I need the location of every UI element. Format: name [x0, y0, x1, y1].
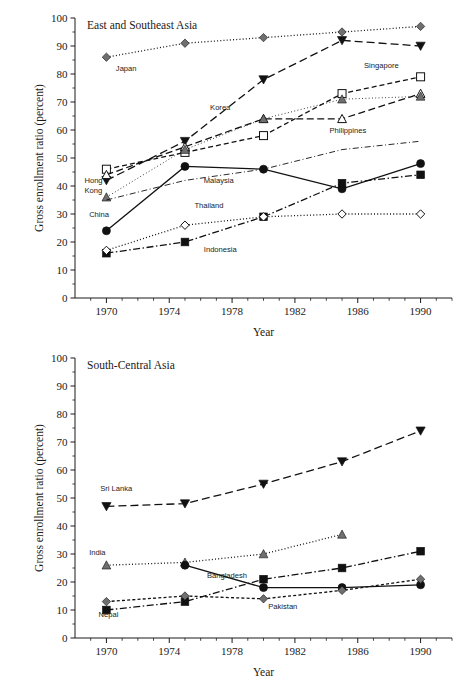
x-tick-label: 1978 [221, 645, 244, 657]
y-tick-label: 20 [57, 576, 69, 588]
series-label: India [89, 548, 106, 557]
x-tick-label: 1970 [95, 645, 118, 657]
y-tick-label: 90 [57, 40, 69, 52]
y-tick-label: 30 [57, 208, 69, 220]
series-label: Korea [210, 103, 231, 112]
marker-diamond-gray [102, 597, 110, 605]
marker-diamond-open [181, 221, 189, 229]
y-tick-label: 100 [51, 352, 68, 364]
series-hong-kong [102, 92, 425, 201]
marker-circle-filled [260, 165, 268, 173]
series-line [106, 431, 420, 507]
series-label: Philippines [329, 126, 366, 135]
marker-diamond-gray [338, 28, 346, 36]
series-label: Bangladesh [207, 571, 247, 580]
series-label: Japan [116, 64, 137, 73]
y-tick-label: 40 [57, 180, 69, 192]
series-thailand [102, 210, 425, 255]
panel-title: East and Southeast Asia [87, 19, 197, 31]
marker-circle-filled [181, 561, 189, 569]
series-label: China [89, 210, 110, 219]
x-axis-title: Year [253, 326, 274, 338]
marker-triangle-down-filled [416, 427, 425, 435]
series-label: Hong [84, 176, 102, 185]
marker-diamond-open [338, 210, 346, 218]
plot-area-bottom: 0102030405060708090100197019741978198219… [0, 350, 467, 688]
marker-square-open [417, 73, 425, 81]
y-axis-title: Gross enrollment ratio (percent) [33, 84, 46, 232]
marker-circle-filled [102, 227, 110, 235]
marker-square-filled [417, 547, 425, 555]
x-tick-label: 1982 [284, 305, 306, 317]
x-tick-label: 1990 [410, 305, 433, 317]
x-tick-label: 1978 [221, 305, 244, 317]
y-tick-label: 70 [57, 96, 69, 108]
y-tick-label: 100 [51, 12, 68, 24]
x-axis-title: Year [253, 666, 274, 678]
y-tick-label: 80 [57, 68, 69, 80]
series-india [102, 530, 346, 569]
y-tick-label: 90 [57, 380, 69, 392]
marker-square-filled [338, 179, 346, 187]
series-label: Kong [84, 186, 102, 195]
series-label: Nepal [99, 610, 119, 619]
y-tick-label: 20 [57, 236, 69, 248]
marker-diamond-gray [259, 33, 267, 41]
y-tick-label: 50 [57, 492, 69, 504]
y-tick-label: 40 [57, 520, 69, 532]
marker-diamond-gray [102, 53, 110, 61]
chart-svg-top: 0102030405060708090100197019741978198219… [0, 0, 467, 350]
y-tick-label: 0 [62, 632, 68, 644]
marker-circle-filled [417, 160, 425, 168]
x-tick-label: 1986 [347, 645, 370, 657]
x-tick-label: 1982 [284, 645, 306, 657]
marker-diamond-gray [259, 595, 267, 603]
series-korea [102, 37, 425, 185]
marker-triangle-up-gray [102, 561, 111, 569]
marker-diamond-gray [416, 22, 424, 30]
y-tick-label: 70 [57, 436, 69, 448]
y-tick-label: 80 [57, 408, 69, 420]
chart-east-southeast-asia: 0102030405060708090100197019741978198219… [0, 0, 467, 350]
series-label: Sri Lanka [100, 484, 133, 493]
marker-diamond-gray [181, 39, 189, 47]
y-tick-label: 50 [57, 152, 69, 164]
series-china [102, 160, 424, 235]
y-tick-label: 10 [57, 604, 69, 616]
marker-square-filled [181, 238, 189, 246]
marker-circle-filled [260, 584, 268, 592]
chart-svg-bottom: 0102030405060708090100197019741978198219… [0, 350, 467, 688]
y-tick-label: 10 [57, 264, 69, 276]
series-sri-lanka [102, 427, 425, 511]
x-tick-label: 1990 [410, 645, 433, 657]
x-tick-label: 1974 [158, 645, 181, 657]
series-label: Indonesia [204, 245, 238, 254]
marker-circle-filled [181, 162, 189, 170]
marker-square-filled [260, 575, 268, 583]
y-tick-label: 30 [57, 548, 69, 560]
marker-square-filled [338, 564, 346, 572]
marker-triangle-down-filled [337, 458, 346, 466]
marker-square-open [260, 132, 268, 140]
series-line [106, 534, 342, 565]
x-tick-label: 1974 [158, 305, 181, 317]
plot-area-top: 0102030405060708090100197019741978198219… [0, 0, 467, 350]
series-label: Malaysia [204, 176, 235, 185]
series-label: Pakistan [268, 602, 297, 611]
y-tick-label: 0 [62, 292, 68, 304]
y-tick-label: 60 [57, 464, 69, 476]
marker-triangle-up-gray [338, 530, 347, 538]
y-axis-title: Gross enrollment ratio (percent) [33, 424, 46, 572]
chart-south-central-asia: 0102030405060708090100197019741978198219… [0, 350, 467, 688]
marker-square-filled [417, 171, 425, 179]
series-label: Singapore [364, 61, 399, 70]
series-line [106, 96, 420, 197]
y-tick-label: 60 [57, 124, 69, 136]
panel-title: South-Central Asia [87, 359, 175, 371]
x-tick-label: 1970 [95, 305, 118, 317]
marker-diamond-open [416, 210, 424, 218]
series-label: Thailand [194, 201, 223, 210]
x-tick-label: 1986 [347, 305, 370, 317]
